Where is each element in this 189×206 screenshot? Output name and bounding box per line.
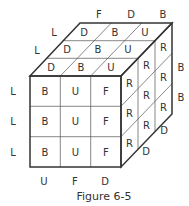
svg-text:U: U (124, 44, 131, 55)
svg-text:D: D (63, 44, 71, 55)
svg-text:U: U (72, 147, 79, 158)
svg-text:U: U (72, 116, 79, 127)
svg-text:R: R (160, 102, 167, 113)
svg-text:B: B (178, 62, 185, 73)
svg-text:D: D (142, 146, 150, 157)
svg-text:R: R (160, 72, 167, 83)
svg-text:B: B (42, 147, 49, 158)
svg-text:R: R (143, 90, 150, 101)
svg-text:L: L (10, 147, 16, 158)
svg-text:L: L (34, 45, 40, 56)
svg-text:D: D (127, 9, 135, 20)
svg-text:R: R (126, 78, 133, 89)
svg-text:D: D (47, 62, 55, 73)
front-face-labels: B U F B U F B U F (42, 86, 110, 158)
cube-diagram: B U F B U F B U F D B U D B U D B U R R … (0, 0, 189, 206)
svg-text:B: B (42, 116, 49, 127)
svg-text:B: B (95, 44, 102, 55)
svg-text:R: R (143, 120, 150, 131)
svg-text:R: R (126, 108, 133, 119)
svg-text:L: L (51, 27, 57, 38)
svg-text:B: B (112, 27, 119, 38)
svg-text:F: F (72, 176, 78, 187)
svg-text:L: L (10, 116, 16, 127)
top-face-labels: D B U D B U D B U (47, 27, 149, 73)
svg-text:B: B (160, 9, 167, 20)
svg-text:F: F (103, 86, 109, 97)
figure-caption: Figure 6-5 (76, 190, 131, 203)
svg-text:F: F (103, 147, 109, 158)
svg-text:R: R (126, 138, 133, 149)
svg-text:B: B (178, 92, 185, 103)
svg-text:L: L (10, 86, 16, 97)
svg-text:U: U (40, 176, 47, 187)
svg-text:U: U (141, 27, 148, 38)
svg-text:U: U (72, 86, 79, 97)
svg-text:D: D (101, 176, 109, 187)
svg-text:D: D (80, 27, 88, 38)
svg-text:U: U (107, 62, 114, 73)
svg-text:F: F (103, 116, 109, 127)
svg-text:F: F (96, 9, 102, 20)
svg-text:B: B (42, 86, 49, 97)
svg-text:B: B (78, 62, 85, 73)
svg-text:R: R (160, 42, 167, 53)
svg-text:R: R (143, 60, 150, 71)
svg-text:D: D (160, 125, 168, 136)
